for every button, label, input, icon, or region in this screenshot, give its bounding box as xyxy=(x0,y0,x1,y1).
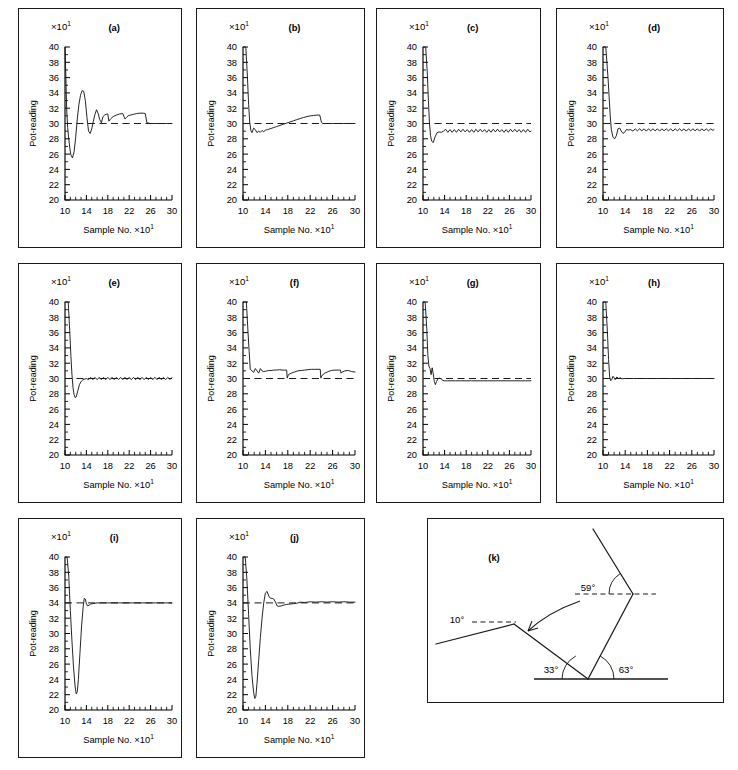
x-tick-label: 26 xyxy=(145,461,155,471)
x-tick-label: 26 xyxy=(145,716,155,726)
y-tick-label: 32 xyxy=(227,359,237,369)
y-tick-label: 20 xyxy=(227,195,237,205)
y-tick-label: 28 xyxy=(49,389,59,399)
y-axis-title: Pot-reading xyxy=(206,610,216,657)
x-tick-label: 30 xyxy=(709,206,719,216)
x-tick-label: 30 xyxy=(709,461,719,471)
y-tick-label: 34 xyxy=(227,88,237,98)
y-tick-label: 28 xyxy=(587,389,597,399)
x-tick-label: 26 xyxy=(687,206,697,216)
panel-letter: (b) xyxy=(289,22,301,33)
x-tick-label: 10 xyxy=(598,461,608,471)
y-tick-label: 40 xyxy=(227,552,237,562)
plot-panel-d: ×101(d)202224262830323436384010141822263… xyxy=(556,8,724,248)
x-tick-label: 30 xyxy=(526,461,536,471)
data-curve xyxy=(65,302,172,398)
y-axis-multiplier: ×101 xyxy=(51,530,71,542)
angle-label-59: 59° xyxy=(581,582,596,593)
panel-letter: (e) xyxy=(108,277,119,288)
y-tick-label: 32 xyxy=(49,359,59,369)
x-tick-label: 14 xyxy=(260,716,270,726)
y-tick-label: 28 xyxy=(49,134,59,144)
x-tick-label: 22 xyxy=(124,206,134,216)
y-axis-multiplier: ×101 xyxy=(589,275,609,287)
data-curve xyxy=(243,557,355,699)
y-tick-label: 26 xyxy=(227,660,237,670)
data-curve xyxy=(423,47,531,143)
y-tick-label: 28 xyxy=(227,389,237,399)
y-tick-label: 26 xyxy=(227,405,237,415)
y-tick-label: 34 xyxy=(227,598,237,608)
panel-letter: (g) xyxy=(467,277,479,288)
y-tick-label: 34 xyxy=(407,88,417,98)
x-tick-label: 10 xyxy=(418,206,428,216)
y-tick-label: 34 xyxy=(49,598,59,608)
y-tick-label: 34 xyxy=(587,343,597,353)
y-tick-label: 20 xyxy=(49,450,59,460)
x-tick-label: 30 xyxy=(350,716,360,726)
y-tick-label: 40 xyxy=(49,42,59,52)
y-tick-label: 40 xyxy=(227,42,237,52)
y-tick-label: 40 xyxy=(407,297,417,307)
y-tick-label: 36 xyxy=(587,328,597,338)
y-tick-label: 22 xyxy=(227,690,237,700)
angle-label-33: 33° xyxy=(544,664,559,675)
y-axis-multiplier: ×101 xyxy=(51,20,71,32)
y-tick-label: 30 xyxy=(227,374,237,384)
plot-panel-f: ×101(f)202224262830323436384010141822263… xyxy=(196,263,365,503)
x-tick-label: 26 xyxy=(687,461,697,471)
y-tick-label: 24 xyxy=(587,165,597,175)
x-tick-label: 26 xyxy=(504,206,514,216)
y-tick-label: 40 xyxy=(49,552,59,562)
plot-panel-g: ×101(g)202224262830323436384010141822263… xyxy=(376,263,541,503)
y-tick-label: 36 xyxy=(49,583,59,593)
y-tick-label: 32 xyxy=(407,104,417,114)
y-tick-label: 20 xyxy=(227,705,237,715)
x-tick-label: 14 xyxy=(439,206,449,216)
y-tick-label: 36 xyxy=(227,583,237,593)
x-tick-label: 18 xyxy=(103,716,113,726)
y-tick-label: 26 xyxy=(49,150,59,160)
y-tick-label: 30 xyxy=(587,374,597,384)
plot-panel-a: ×101(a)202224262830323436384010141822263… xyxy=(18,8,182,248)
x-axis-title: Sample No. ×101 xyxy=(264,733,335,745)
panel-letter: (h) xyxy=(648,277,660,288)
y-tick-label: 22 xyxy=(49,690,59,700)
y-tick-label: 36 xyxy=(227,328,237,338)
x-tick-label: 14 xyxy=(260,206,270,216)
x-tick-label: 18 xyxy=(283,461,293,471)
y-axis-title: Pot-reading xyxy=(206,100,216,147)
y-axis-title: Pot-reading xyxy=(28,610,38,657)
y-tick-label: 38 xyxy=(587,58,597,68)
x-tick-label: 10 xyxy=(238,716,248,726)
plot-panel-i: ×101(i)202224262830323436384010141822263… xyxy=(18,518,182,758)
y-tick-label: 24 xyxy=(227,165,237,175)
y-axis-multiplier: ×101 xyxy=(409,20,429,32)
panel-letter: (i) xyxy=(110,532,119,543)
y-tick-label: 38 xyxy=(227,568,237,578)
y-tick-label: 26 xyxy=(587,150,597,160)
y-tick-label: 20 xyxy=(587,450,597,460)
y-tick-label: 40 xyxy=(587,297,597,307)
y-tick-label: 28 xyxy=(227,644,237,654)
plot-panel-b: ×101(b)202224262830323436384010141822263… xyxy=(196,8,365,248)
x-axis-title: Sample No. ×101 xyxy=(623,478,694,490)
data-curve xyxy=(423,302,531,385)
y-tick-label: 34 xyxy=(407,343,417,353)
y-tick-label: 40 xyxy=(227,297,237,307)
data-curve xyxy=(243,47,355,133)
y-tick-label: 20 xyxy=(49,195,59,205)
y-tick-label: 40 xyxy=(587,42,597,52)
panel-letter: (k) xyxy=(488,552,499,563)
link-segment-upper-top xyxy=(593,529,633,594)
x-tick-label: 30 xyxy=(167,206,177,216)
x-tick-label: 22 xyxy=(305,461,315,471)
y-tick-label: 26 xyxy=(407,405,417,415)
y-axis-title: Pot-reading xyxy=(566,355,576,402)
x-tick-label: 22 xyxy=(124,716,134,726)
y-tick-label: 38 xyxy=(49,58,59,68)
y-tick-label: 32 xyxy=(227,104,237,114)
x-tick-label: 14 xyxy=(81,716,91,726)
y-tick-label: 34 xyxy=(49,343,59,353)
y-tick-label: 38 xyxy=(227,313,237,323)
